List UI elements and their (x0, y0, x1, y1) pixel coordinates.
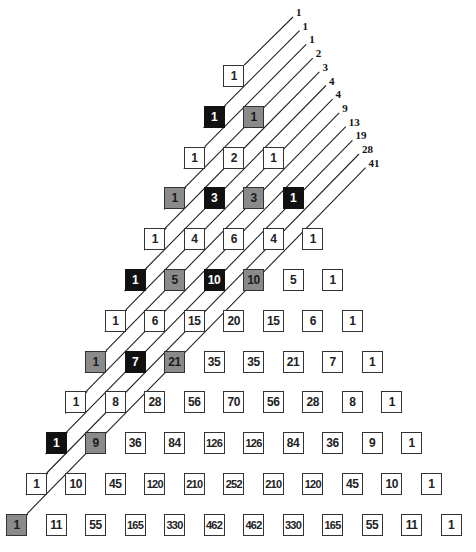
triangle-cell: 20 (223, 310, 244, 332)
triangle-cell: 5 (283, 269, 304, 291)
triangle-cell: 36 (125, 432, 146, 454)
diagonal-sum-label: 3 (322, 62, 328, 73)
diagonal-sum-label: 19 (355, 130, 366, 141)
triangle-cell: 10 (204, 269, 225, 291)
triangle-cell: 1 (302, 228, 323, 250)
triangle-cell: 45 (105, 473, 126, 495)
triangle-cell: 55 (362, 514, 383, 536)
triangle-cell: 6 (302, 310, 323, 332)
triangle-cell: 55 (85, 514, 106, 536)
triangle-cell: 10 (65, 473, 86, 495)
triangle-cell: 1 (243, 106, 264, 128)
diagonal-sum-label: 1 (303, 21, 309, 32)
triangle-cell: 35 (204, 351, 225, 373)
triangle-cell: 1 (164, 187, 185, 209)
triangle-cell: 11 (46, 514, 67, 536)
triangle-cell: 1 (46, 432, 67, 454)
diagonal-sum-label: 1 (296, 7, 302, 18)
triangle-cell: 1 (6, 514, 27, 536)
diagonal-sum-label: 9 (342, 103, 348, 114)
triangle-cell: 462 (204, 514, 225, 536)
triangle-cell: 7 (322, 351, 343, 373)
triangle-cell: 1 (65, 391, 86, 413)
diagonal-sum-label: 13 (349, 117, 360, 128)
triangle-cell: 330 (164, 514, 185, 536)
triangle-cell: 6 (144, 310, 165, 332)
diagonal-sum-label: 4 (329, 76, 335, 87)
diagonal-sum-label: 28 (362, 144, 373, 155)
triangle-cell: 9 (85, 432, 106, 454)
triangle-cell: 84 (283, 432, 304, 454)
triangle-cell: 10 (243, 269, 264, 291)
triangle-cell: 210 (184, 473, 205, 495)
triangle-cell: 3 (243, 187, 264, 209)
pascal-triangle-diagram: 1111211331146411510105116152015611721353… (0, 0, 476, 552)
diagonal-line (205, 44, 306, 146)
triangle-cell: 126 (204, 432, 225, 454)
triangle-cell: 1 (125, 269, 146, 291)
triangle-cell: 1 (342, 310, 363, 332)
triangle-cell: 56 (184, 391, 205, 413)
triangle-cell: 1 (223, 65, 244, 87)
diagonal-line (244, 17, 293, 65)
diagonal-sum-label: 4 (336, 89, 342, 100)
triangle-cell: 28 (302, 391, 323, 413)
triangle-cell: 1 (144, 228, 165, 250)
triangle-cell: 4 (263, 228, 284, 250)
triangle-cell: 1 (421, 473, 442, 495)
triangle-cell: 1 (263, 147, 284, 169)
triangle-cell: 252 (223, 473, 244, 495)
triangle-cell: 45 (342, 473, 363, 495)
triangle-cell: 120 (144, 473, 165, 495)
triangle-cell: 165 (322, 514, 343, 536)
triangle-cell: 15 (184, 310, 205, 332)
triangle-cell: 1 (85, 351, 106, 373)
triangle-cell: 35 (243, 351, 264, 373)
triangle-cell: 1 (105, 310, 126, 332)
triangle-cell: 3 (204, 187, 225, 209)
triangle-cell: 1 (381, 391, 402, 413)
triangle-cell: 9 (362, 432, 383, 454)
triangle-cell: 21 (283, 351, 304, 373)
diagonal-line (27, 168, 366, 514)
triangle-cell: 1 (401, 432, 422, 454)
triangle-cell: 4 (184, 228, 205, 250)
triangle-cell: 165 (125, 514, 146, 536)
triangle-cell: 210 (263, 473, 284, 495)
triangle-cell: 8 (105, 391, 126, 413)
triangle-cell: 1 (441, 514, 462, 536)
triangle-cell: 1 (283, 187, 304, 209)
diagonal-sum-label: 1 (309, 34, 315, 45)
triangle-cell: 36 (322, 432, 343, 454)
triangle-cell: 462 (243, 514, 264, 536)
triangle-cell: 28 (144, 391, 165, 413)
triangle-cell: 56 (263, 391, 284, 413)
triangle-cell: 84 (164, 432, 185, 454)
triangle-cell: 1 (184, 147, 205, 169)
triangle-cell: 1 (204, 106, 225, 128)
triangle-cell: 10 (381, 473, 402, 495)
triangle-cell: 21 (164, 351, 185, 373)
triangle-cell: 1 (362, 351, 383, 373)
diagonal-sum-label: 41 (369, 158, 380, 169)
triangle-cell: 330 (283, 514, 304, 536)
triangle-cell: 1 (322, 269, 343, 291)
triangle-cell: 6 (223, 228, 244, 250)
triangle-cell: 1 (26, 473, 47, 495)
diagonal-sum-label: 2 (316, 48, 322, 59)
triangle-cell: 7 (125, 351, 146, 373)
triangle-cell: 11 (401, 514, 422, 536)
triangle-cell: 2 (223, 147, 244, 169)
triangle-cell: 120 (302, 473, 323, 495)
triangle-cell: 70 (223, 391, 244, 413)
triangle-cell: 126 (243, 432, 264, 454)
triangle-cell: 5 (164, 269, 185, 291)
triangle-cell: 15 (263, 310, 284, 332)
triangle-cell: 8 (342, 391, 363, 413)
